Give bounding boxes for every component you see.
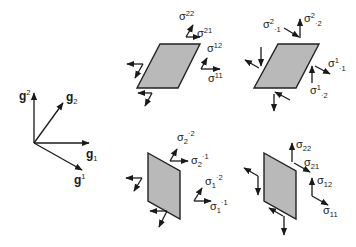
panel-bottom-left: σ2·2 σ2·1 σ1·2 σ1·1 <box>126 129 228 227</box>
label-s12: σ12 <box>207 41 222 54</box>
arrow-s12 <box>201 58 207 69</box>
arrow-s2-1 <box>284 28 299 37</box>
element-parallelogram <box>148 153 180 219</box>
label-s21: σ21 <box>304 156 319 171</box>
basis-vectors: g2 g2 g1 g1 <box>19 88 98 187</box>
element-parallelogram <box>254 44 319 88</box>
label-g-sup2: g2 <box>19 88 31 103</box>
panel-top-right: σ2·1 σ2·2 σ1·1 σ1·2 <box>245 11 346 111</box>
label-s22: σ22 <box>296 138 311 153</box>
arrow-left-a <box>244 168 258 176</box>
label-g-sup1: g1 <box>74 172 86 187</box>
label-s1-2: σ1·2 <box>205 173 223 190</box>
label-s2-2: σ2·2 <box>304 11 322 28</box>
label-s2-1: σ2·1 <box>263 17 281 34</box>
arrow-s1-2 <box>194 188 202 201</box>
label-g-sub1: g1 <box>86 147 98 163</box>
arrow-left-b <box>134 178 142 191</box>
label-s22: σ22 <box>179 9 194 22</box>
arrow-left-a <box>245 60 259 68</box>
panel-bottom-right: σ22 σ21 σ12 σ11 <box>244 138 338 235</box>
label-s1-1: σ1·1 <box>328 56 346 73</box>
label-s12: σ12 <box>317 174 332 189</box>
element-parallelogram <box>137 44 200 88</box>
label-s11: σ11 <box>208 71 223 84</box>
label-s21: σ21 <box>197 26 212 39</box>
label-s2-1: σ2·1 <box>191 152 209 169</box>
element-parallelogram <box>264 153 296 219</box>
label-s11: σ11 <box>323 204 338 219</box>
arrow-bottom-b <box>145 93 152 106</box>
panel-top-left: σ22 σ21 σ12 σ11 <box>127 9 223 106</box>
label-s1-1: σ1·1 <box>210 198 228 215</box>
label-s1-2: σ1·2 <box>310 83 328 100</box>
stress-tensor-components-diagram: g2 g2 g1 g1 σ22 σ21 σ12 <box>0 0 356 247</box>
g-sup1-arrow <box>34 143 82 170</box>
arrow-bottom-b <box>159 211 167 227</box>
arrow-left-b <box>135 64 143 78</box>
arrow-s22 <box>186 25 193 37</box>
g-sub2-arrow <box>34 103 63 143</box>
label-g-sub2: g2 <box>66 90 78 106</box>
arrow-s2-2 <box>170 149 177 161</box>
label-s2-2: σ2·2 <box>177 129 195 146</box>
arrow-bottom-a <box>275 92 290 100</box>
